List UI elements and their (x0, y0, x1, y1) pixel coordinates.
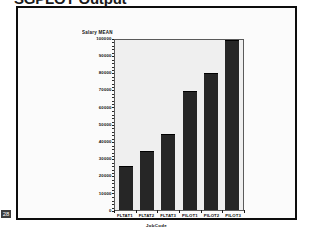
x-axis-tick-label: FLTAT3 (157, 213, 179, 221)
bar-fltat1[interactable] (119, 166, 133, 210)
bar-pilot3[interactable] (225, 40, 239, 210)
bar-fltat2[interactable] (140, 151, 154, 211)
plot-inner (115, 40, 243, 210)
y-axis-title: Salary MEAN (82, 30, 113, 35)
bar-pilot2[interactable] (204, 73, 218, 210)
bar-series (115, 40, 243, 210)
x-axis-tick-label: PILOT1 (179, 213, 201, 221)
x-axis-tick-label: PILOT3 (222, 213, 244, 221)
y-axis-ticks: 0100002000030000400005000060000700008000… (18, 39, 114, 211)
bar-fltat3[interactable] (161, 134, 175, 211)
x-axis-tick-label: FLTAT2 (136, 213, 158, 221)
bar-slot (115, 40, 136, 210)
bar-slot (158, 40, 179, 210)
slide-page-number: 28 (1, 210, 11, 218)
x-axis-tick-labels: FLTAT1FLTAT2FLTAT3PILOT1PILOT2PILOT3 (114, 213, 244, 221)
bar-slot (179, 40, 200, 210)
bar-slot (136, 40, 157, 210)
plot-area (114, 39, 244, 211)
chart-canvas: Salary MEAN 0100002000030000400005000060… (18, 8, 295, 218)
x-axis-title: JobCode (18, 223, 295, 228)
bar-slot (222, 40, 243, 210)
chart-object-frame[interactable]: Salary MEAN 0100002000030000400005000060… (16, 6, 297, 220)
x-axis-tick-label: FLTAT1 (114, 213, 136, 221)
bar-pilot1[interactable] (183, 91, 197, 210)
bar-slot (200, 40, 221, 210)
x-axis-tickmark (244, 210, 245, 213)
x-axis-tick-label: PILOT2 (201, 213, 223, 221)
